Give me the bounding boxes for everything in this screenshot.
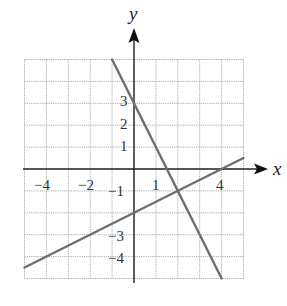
y-tick-label: −4 — [108, 250, 124, 266]
x-tick-label: 4 — [216, 177, 224, 193]
axes — [23, 28, 268, 283]
y-tick-label: 1 — [120, 138, 128, 154]
y-tick-label: 2 — [120, 116, 128, 132]
coordinate-plane: x y −4 −2 1 4 3 2 1 −1 −3 −4 — [0, 0, 287, 306]
y-tick-label: −3 — [108, 228, 124, 244]
x-axis-label: x — [272, 158, 282, 179]
y-tick-label: −1 — [108, 183, 124, 199]
y-tick-label: 3 — [120, 93, 128, 109]
x-tick-label: 1 — [152, 177, 160, 193]
x-tick-label: −4 — [34, 177, 50, 193]
x-tick-label: −2 — [78, 177, 94, 193]
y-axis-label: y — [127, 3, 138, 24]
